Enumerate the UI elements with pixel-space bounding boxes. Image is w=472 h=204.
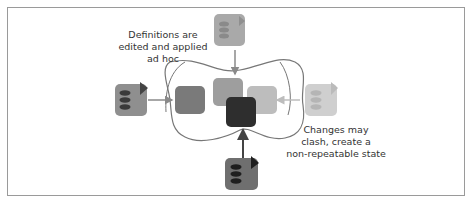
source-bottom-icon (225, 156, 259, 190)
source-top-icon (214, 14, 245, 46)
annotation-line: Definitions are (118, 29, 208, 41)
label-pointer-bottom (280, 62, 290, 115)
block-left (175, 86, 205, 114)
source-right-icon (305, 82, 338, 116)
annotation-line: ad hoc (118, 53, 208, 65)
annotation-line: clash, create a (286, 136, 386, 148)
annotation-clash: Changes may clash, create a non-repeatab… (286, 124, 386, 160)
diagram-canvas (0, 0, 472, 204)
annotation-line: non-repeatable state (286, 148, 386, 160)
annotation-ad-hoc: Definitions are edited and applied ad ho… (118, 29, 208, 65)
annotation-line: Changes may (286, 124, 386, 136)
source-left-icon (115, 82, 148, 116)
annotation-line: edited and applied (118, 41, 208, 53)
block-center (226, 97, 256, 127)
